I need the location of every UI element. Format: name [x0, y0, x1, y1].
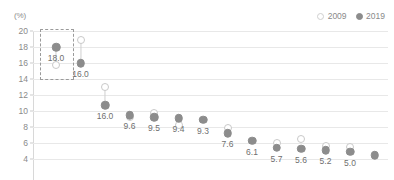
- y-axis-tick-mark: [30, 79, 33, 80]
- data-point-2009[interactable]: [77, 36, 85, 44]
- legend-label-2009: 2009: [328, 12, 347, 21]
- gridline: [33, 79, 388, 80]
- data-point-label: 5.2: [320, 156, 332, 166]
- data-point-label: 7.6: [222, 139, 234, 149]
- data-point-2019[interactable]: [174, 114, 183, 123]
- data-point-label: 16.0: [97, 111, 114, 121]
- data-point-2019[interactable]: [125, 111, 134, 120]
- data-point-label: 16.0: [72, 69, 89, 79]
- data-point-2019[interactable]: [223, 129, 232, 138]
- y-axis-tick-label: 8: [23, 122, 28, 132]
- data-point-label: 5.6: [295, 155, 307, 165]
- data-point-2019[interactable]: [199, 116, 208, 125]
- data-point-2019[interactable]: [76, 59, 85, 68]
- y-axis-tick-label: 18: [19, 42, 28, 52]
- gridline: [33, 47, 388, 48]
- data-point-label: 9.4: [173, 124, 185, 134]
- legend-item-2019[interactable]: 2019: [356, 12, 385, 21]
- data-point-label: 5.7: [271, 154, 283, 164]
- data-point-2009[interactable]: [297, 135, 305, 143]
- data-point-2019[interactable]: [101, 101, 110, 110]
- data-point-label: 5.0: [344, 158, 356, 168]
- legend-label-2019: 2019: [366, 12, 385, 21]
- data-point-label: 9.3: [197, 126, 209, 136]
- chart-container: (%) 2009 2019 20181614121086418.016.016.…: [0, 0, 394, 180]
- gridline: [33, 127, 388, 128]
- data-point-label: 9.5: [148, 123, 160, 133]
- gridline: [33, 159, 388, 160]
- data-point-label: 18.0: [48, 53, 65, 63]
- y-axis-tick-label: 14: [19, 74, 28, 84]
- y-axis-tick-mark: [30, 127, 33, 128]
- data-point-label: 9.6: [124, 121, 136, 131]
- y-axis-tick-mark: [30, 159, 33, 160]
- y-axis-tick-mark: [30, 63, 33, 64]
- y-axis-tick-label: 10: [19, 106, 28, 116]
- gridline: [33, 31, 388, 32]
- data-point-2019[interactable]: [248, 136, 257, 145]
- data-point-2009[interactable]: [101, 83, 109, 91]
- y-axis-tick-label: 20: [19, 26, 28, 36]
- legend-marker-hollow-circle-icon: [317, 13, 324, 20]
- data-point-2019[interactable]: [52, 43, 61, 52]
- data-point-2019[interactable]: [370, 151, 379, 160]
- y-axis-unit-label: (%): [14, 11, 26, 20]
- y-axis-tick-mark: [30, 111, 33, 112]
- y-axis-tick-label: 4: [23, 154, 28, 164]
- legend-item-2009[interactable]: 2009: [317, 12, 346, 21]
- y-axis-tick-mark: [30, 143, 33, 144]
- data-point-label: 6.1: [246, 147, 258, 157]
- y-axis-tick-label: 12: [19, 90, 28, 100]
- plot-area: 20181614121086418.016.016.09.69.59.49.37…: [33, 31, 388, 180]
- legend-marker-filled-circle-icon: [356, 13, 363, 20]
- gridline: [33, 111, 388, 112]
- data-point-2019[interactable]: [321, 146, 330, 155]
- gridline: [33, 143, 388, 144]
- data-point-2019[interactable]: [346, 148, 355, 157]
- data-point-2019[interactable]: [297, 144, 306, 153]
- y-axis-tick-label: 6: [23, 138, 28, 148]
- data-point-2019[interactable]: [272, 144, 281, 153]
- chart-legend: 2009 2019: [317, 12, 385, 21]
- y-axis-tick-label: 16: [19, 58, 28, 68]
- y-axis-tick-mark: [30, 95, 33, 96]
- y-axis-tick-mark: [30, 31, 33, 32]
- data-point-2019[interactable]: [150, 113, 159, 122]
- y-axis-tick-mark: [30, 47, 33, 48]
- gridline: [33, 63, 388, 64]
- gridline: [33, 95, 388, 96]
